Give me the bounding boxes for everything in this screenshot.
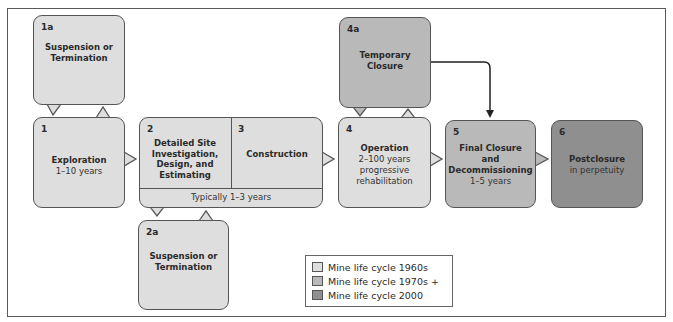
stage-title-line: Detailed Site bbox=[140, 138, 230, 149]
legend: Mine life cycle 1960s Mine life cycle 19… bbox=[305, 255, 453, 307]
stage-2-3-box: 2 Detailed Site Investigation, Design, a… bbox=[139, 117, 323, 208]
stage-title-line: Suspension or bbox=[139, 251, 228, 262]
stage-title-line: Temporary bbox=[340, 50, 430, 61]
stage-number: 5 bbox=[453, 127, 459, 137]
legend-item-1960s: Mine life cycle 1960s bbox=[312, 260, 446, 274]
stage-title-line: and bbox=[446, 154, 535, 165]
stage-number: 1a bbox=[41, 22, 53, 32]
stage-title-line: Suspension or bbox=[34, 42, 124, 53]
stage-4-box: 4 Operation 2–100 years progressive reha… bbox=[338, 117, 431, 208]
legend-label: Mine life cycle 2000 bbox=[328, 290, 423, 301]
stage-title-line: Termination bbox=[34, 53, 124, 64]
stage-2a-box: 2a Suspension or Termination bbox=[138, 220, 229, 310]
callout-pointer-1a bbox=[47, 104, 61, 115]
divider-horizontal bbox=[140, 188, 322, 189]
stage-duration: 1–5 years bbox=[446, 176, 535, 187]
legend-label: Mine life cycle 1960s bbox=[328, 262, 428, 273]
callout-pointer-4a bbox=[353, 107, 367, 116]
stage-duration: 1–10 years bbox=[34, 166, 124, 177]
legend-swatch bbox=[312, 290, 323, 300]
stage-number: 6 bbox=[559, 127, 565, 137]
stage-duration: 2–100 years bbox=[339, 154, 430, 165]
stage-note: progressive bbox=[339, 165, 430, 176]
stage-title-line: Final Closure bbox=[446, 143, 535, 154]
stage-title: Exploration bbox=[34, 155, 124, 166]
stage-number: 3 bbox=[238, 124, 244, 134]
stage-duration: in perpetuity bbox=[552, 165, 642, 176]
stage-title-line: Termination bbox=[139, 262, 228, 273]
stage-title: Operation bbox=[339, 143, 430, 154]
stage-title-line: Closure bbox=[340, 61, 430, 72]
pointer-5-to-6 bbox=[535, 152, 548, 166]
stage-title: Construction bbox=[232, 149, 322, 160]
stage-note: rehabilitation bbox=[339, 176, 430, 187]
pointer-1-to-2 bbox=[124, 152, 136, 166]
legend-label: Mine life cycle 1970s + bbox=[328, 276, 439, 287]
stage-title-line: Decommissioning bbox=[446, 165, 535, 176]
stage-1a-box: 1a Suspension or Termination bbox=[33, 15, 125, 105]
stage-title-line: Design, and bbox=[140, 159, 230, 170]
legend-item-1970s: Mine life cycle 1970s + bbox=[312, 274, 446, 288]
callout-pointer-2 bbox=[150, 207, 164, 216]
stage-number: 2a bbox=[146, 227, 158, 237]
stage-6-box: 6 Postclosure in perpetuity bbox=[551, 120, 643, 208]
stage-number: 4a bbox=[347, 24, 359, 34]
arrow-head-icon bbox=[486, 110, 494, 118]
stage-4a-box: 4a Temporary Closure bbox=[339, 17, 431, 108]
stage-2-3-duration: Typically 1–3 years bbox=[140, 192, 322, 203]
legend-item-2000: Mine life cycle 2000 bbox=[312, 288, 446, 302]
pointer-3-to-4 bbox=[322, 152, 334, 166]
legend-swatch bbox=[312, 262, 323, 272]
stage-number: 1 bbox=[41, 124, 47, 134]
stage-5-box: 5 Final Closure and Decommissioning 1–5 … bbox=[445, 120, 536, 208]
arrow-4a-to-5 bbox=[431, 62, 490, 112]
stage-title-line: Estimating bbox=[140, 170, 230, 181]
legend-swatch bbox=[312, 276, 323, 286]
pointer-4-to-5 bbox=[430, 152, 442, 166]
stage-number: 2 bbox=[147, 124, 153, 134]
stage-title-line: Investigation, bbox=[140, 149, 230, 160]
stage-title: Postclosure bbox=[552, 154, 642, 165]
stage-number: 4 bbox=[346, 124, 352, 134]
stage-1-box: 1 Exploration 1–10 years bbox=[33, 117, 125, 208]
